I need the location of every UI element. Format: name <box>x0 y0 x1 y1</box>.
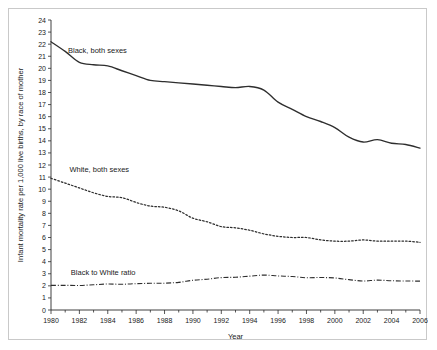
x-tick-label: 2002 <box>355 317 371 324</box>
y-axis: 0123456789101112131415161718192021222324 <box>38 17 51 314</box>
series-label-0: Black, both sexes <box>68 46 127 55</box>
y-tick-label: 2 <box>42 282 46 289</box>
y-tick-label: 24 <box>38 17 46 24</box>
series-label-2: Black to White ratio <box>71 268 136 277</box>
x-tick-label: 1994 <box>242 317 258 324</box>
y-tick-label: 7 <box>42 222 46 229</box>
y-tick-label: 14 <box>38 137 46 144</box>
x-axis-title: Year <box>228 332 244 341</box>
x-tick-label: 1990 <box>185 317 201 324</box>
y-tick-label: 9 <box>42 198 46 205</box>
y-tick-label: 4 <box>42 258 46 265</box>
y-tick-label: 16 <box>38 113 46 120</box>
infant-mortality-line-chart: 0123456789101112131415161718192021222324… <box>9 9 428 341</box>
x-tick-group: 1980198219841986198819901992199419961998… <box>43 310 428 324</box>
y-tick-label: 8 <box>42 210 46 217</box>
series-group <box>51 42 420 286</box>
y-tick-label: 13 <box>38 149 46 156</box>
series-line-1 <box>51 178 420 242</box>
x-tick-label: 2000 <box>327 317 343 324</box>
y-tick-label: 23 <box>38 29 46 36</box>
series-line-0 <box>51 42 420 148</box>
y-tick-label: 12 <box>38 162 46 169</box>
x-tick-label: 1980 <box>43 317 59 324</box>
series-label-group: Black, both sexesWhite, both sexesBlack … <box>68 46 135 277</box>
y-tick-label: 3 <box>42 270 46 277</box>
y-tick-label: 11 <box>39 174 46 181</box>
y-tick-label: 10 <box>38 186 46 193</box>
x-tick-label: 2004 <box>384 317 400 324</box>
chart-figure: 0123456789101112131415161718192021222324… <box>8 8 427 340</box>
y-tick-label: 6 <box>42 234 46 241</box>
y-tick-label: 5 <box>42 246 46 253</box>
y-tick-label: 18 <box>38 89 46 96</box>
y-tick-label: 19 <box>38 77 46 84</box>
x-axis: 1980198219841986198819901992199419961998… <box>43 310 428 324</box>
y-tick-label: 0 <box>42 307 46 314</box>
y-axis-title: Infant mortality rate per 1,000 live bir… <box>16 67 25 262</box>
y-tick-group: 0123456789101112131415161718192021222324 <box>38 17 51 314</box>
y-tick-label: 17 <box>38 101 46 108</box>
y-tick-label: 1 <box>42 294 46 301</box>
x-tick-label: 1992 <box>214 317 230 324</box>
x-tick-label: 2006 <box>412 317 428 324</box>
y-tick-label: 20 <box>38 65 46 72</box>
x-tick-label: 1982 <box>72 317 88 324</box>
x-tick-label: 1984 <box>100 317 116 324</box>
x-tick-label: 1988 <box>157 317 173 324</box>
y-tick-label: 15 <box>38 125 46 132</box>
series-label-1: White, both sexes <box>69 165 129 174</box>
x-tick-label: 1996 <box>270 317 286 324</box>
y-tick-label: 21 <box>38 53 46 60</box>
x-tick-label: 1986 <box>128 317 144 324</box>
x-tick-label: 1998 <box>299 317 315 324</box>
y-tick-label: 22 <box>38 41 46 48</box>
